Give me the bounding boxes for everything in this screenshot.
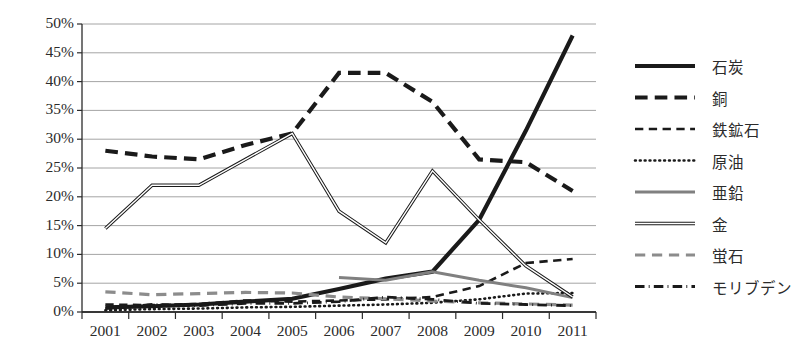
y-axis-tick-label: 20% [46, 187, 74, 205]
series-group [105, 36, 572, 311]
x-axis-tick-label: 2005 [268, 322, 316, 340]
legend-item-5[interactable]: 金 [712, 213, 728, 235]
y-axis-tick-label: 25% [46, 158, 74, 176]
x-axis-tick-label: 2003 [175, 322, 223, 340]
series-鉄鉱石 [105, 259, 572, 305]
x-axis-tick-label: 2004 [222, 322, 270, 340]
x-axis-tick-label: 2001 [81, 322, 129, 340]
y-axis-tick-label: 15% [46, 216, 74, 234]
x-axis-tick-label: 2011 [549, 322, 597, 340]
legend-item-2[interactable]: 鉄鉱石 [712, 118, 760, 140]
x-axis-tick-label: 2010 [502, 322, 550, 340]
axes [77, 24, 596, 319]
y-axis-tick-label: 10% [46, 244, 74, 262]
series-line [105, 259, 572, 305]
legend-item-1[interactable]: 銅 [712, 87, 728, 109]
legend-item-4[interactable]: 亜鉛 [712, 181, 744, 203]
x-axis-tick-label: 2009 [455, 322, 503, 340]
y-axis-tick-label: 40% [46, 72, 74, 90]
y-axis-tick-label: 50% [46, 14, 74, 32]
legend-swatches [635, 66, 695, 287]
y-axis-tick-label: 0% [53, 302, 74, 320]
legend-item-6[interactable]: 蛍石 [712, 244, 744, 266]
legend-item-7[interactable]: モリブデン [712, 276, 792, 298]
legend-item-0[interactable]: 石炭 [712, 55, 744, 77]
y-axis-tick-label: 30% [46, 129, 74, 147]
x-axis-tick-label: 2007 [362, 322, 410, 340]
x-axis-tick-label: 2008 [408, 322, 456, 340]
y-axis-tick-label: 35% [46, 100, 74, 118]
x-axis-tick-label: 2006 [315, 322, 363, 340]
legend-item-3[interactable]: 原油 [712, 150, 744, 172]
gridlines [82, 24, 596, 312]
y-axis-tick-label: 45% [46, 43, 74, 61]
y-axis-tick-label: 5% [53, 273, 74, 291]
x-axis-tick-label: 2002 [128, 322, 176, 340]
